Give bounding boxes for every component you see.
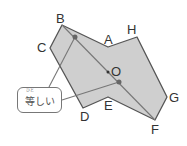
label-g: G — [169, 90, 179, 105]
center-dot-o — [107, 71, 110, 74]
midpoint-dot-lower — [117, 80, 122, 85]
label-a: A — [104, 32, 113, 47]
label-c: C — [37, 40, 46, 55]
label-h: H — [127, 22, 136, 37]
callout-ruby: ひと — [26, 87, 34, 93]
label-b: B — [56, 11, 65, 26]
label-d: D — [80, 109, 89, 124]
midpoint-dot-upper — [73, 35, 78, 40]
equal-callout: ひと 等しい — [17, 87, 62, 113]
label-o: O — [111, 64, 121, 79]
diagram-canvas: B C A H O G E D F — [0, 0, 187, 146]
label-f: F — [151, 122, 159, 137]
label-e: E — [104, 98, 113, 113]
callout-text: ひと 等しい — [25, 93, 55, 108]
callout-label: 等しい — [25, 96, 55, 107]
